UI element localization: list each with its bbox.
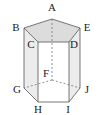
label-J: J — [85, 83, 90, 95]
label-I: I — [66, 103, 70, 115]
label-B: B — [12, 21, 19, 33]
label-E: E — [84, 21, 91, 33]
pentagonal-prism-diagram: A B C D E F G H I J — [0, 0, 99, 115]
label-G: G — [13, 83, 21, 95]
label-C: C — [27, 38, 34, 50]
label-F: F — [43, 67, 49, 79]
label-H: H — [34, 103, 42, 115]
label-A: A — [48, 1, 56, 13]
label-D: D — [70, 38, 78, 50]
